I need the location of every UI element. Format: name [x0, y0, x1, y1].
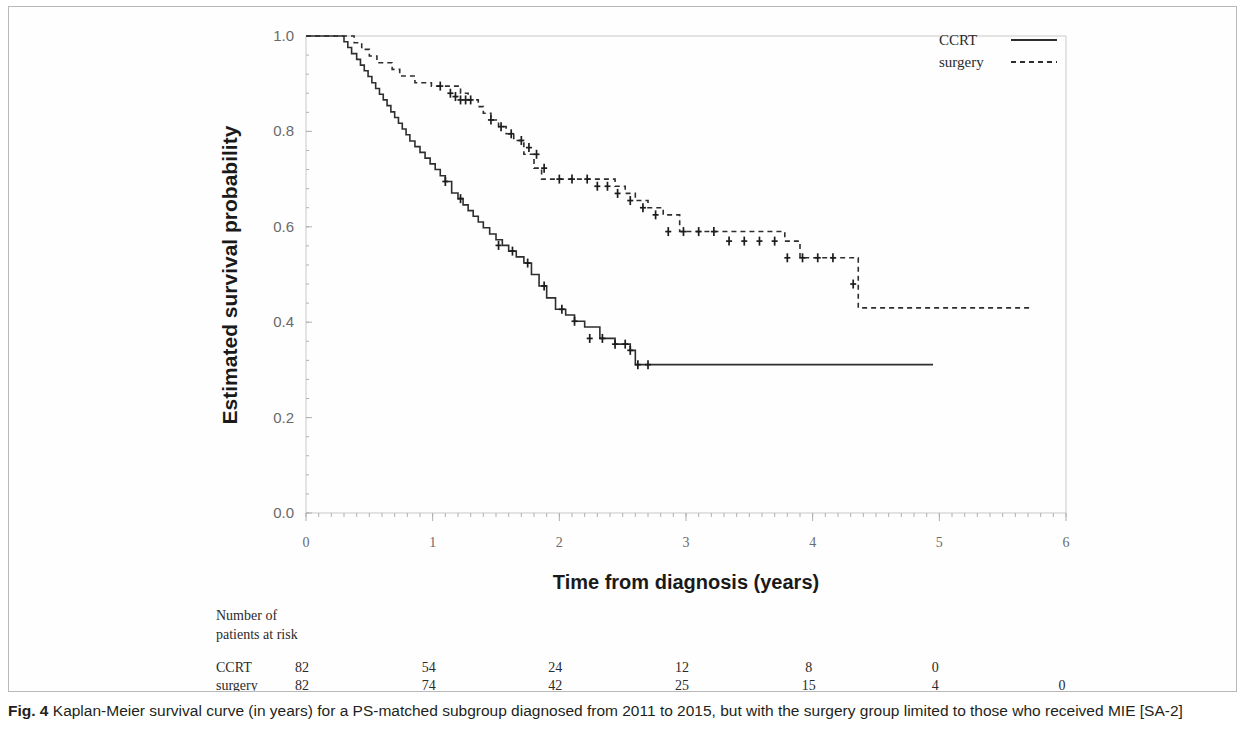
x-tick-label: 4 — [809, 535, 816, 550]
risk-row-label-ccrt: CCRT — [216, 660, 252, 675]
risk-row-label-surgery: surgery — [216, 678, 258, 691]
kaplan-meier-plot: 0.00.20.40.60.81.0 0123456 Estimated sur… — [9, 7, 1236, 691]
x-axis-title: Time from diagnosis (years) — [553, 571, 819, 593]
plot-frame — [306, 36, 1066, 513]
risk-cell: 15 — [802, 678, 816, 691]
risk-cell: 82 — [295, 660, 309, 675]
legend-label-surgery: surgery — [939, 54, 984, 70]
y-tick-label: 0.6 — [273, 218, 294, 235]
x-axis: 0123456 — [303, 513, 1070, 550]
censor-marks — [437, 82, 856, 370]
x-tick-label: 5 — [936, 535, 943, 550]
caption-text: Kaplan-Meier survival curve (in years) f… — [48, 702, 1182, 719]
risk-cell: 8 — [805, 660, 812, 675]
x-tick-label: 3 — [683, 535, 690, 550]
figure-panel: 0.00.20.40.60.81.0 0123456 Estimated sur… — [8, 6, 1237, 692]
y-tick-label: 0.4 — [273, 313, 294, 330]
y-tick-label: 1.0 — [273, 27, 294, 44]
x-tick-label: 1 — [429, 535, 436, 550]
risk-table: Number ofpatients at riskCCRT8254241280s… — [216, 608, 1066, 691]
y-tick-label: 0.8 — [273, 122, 294, 139]
legend: CCRTsurgery — [939, 32, 1057, 70]
risk-cell: 24 — [548, 660, 562, 675]
risk-table-header-line1: Number of — [216, 608, 277, 623]
x-tick-label: 2 — [556, 535, 563, 550]
caption-label: Fig. 4 — [8, 702, 48, 719]
figure-caption: Fig. 4 Kaplan-Meier survival curve (in y… — [8, 700, 1237, 722]
risk-cell: 25 — [675, 678, 689, 691]
x-tick-label: 0 — [303, 535, 310, 550]
risk-cell: 42 — [548, 678, 562, 691]
risk-cell: 0 — [932, 660, 939, 675]
y-tick-label: 0.2 — [273, 409, 294, 426]
y-tick-label: 0.0 — [273, 504, 294, 521]
survival-curve-surgery — [306, 36, 1031, 308]
figure-root: 0.00.20.40.60.81.0 0123456 Estimated sur… — [0, 0, 1245, 752]
x-tick-label: 6 — [1063, 535, 1070, 550]
risk-table-header-line2: patients at risk — [216, 627, 298, 642]
risk-cell: 54 — [422, 660, 436, 675]
risk-cell: 4 — [932, 678, 939, 691]
risk-cell: 0 — [1059, 678, 1066, 691]
risk-cell: 74 — [422, 678, 436, 691]
risk-cell: 82 — [295, 678, 309, 691]
legend-label-ccrt: CCRT — [939, 32, 977, 48]
y-axis-title: Estimated survival probability — [218, 125, 241, 424]
survival-curves — [306, 36, 1031, 365]
survival-curve-ccrt — [306, 36, 933, 365]
risk-cell: 12 — [675, 660, 689, 675]
